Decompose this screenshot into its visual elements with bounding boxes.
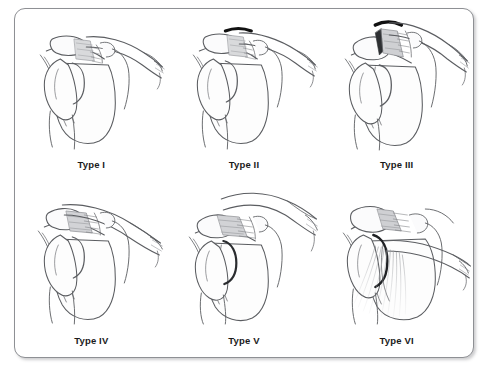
panel-grid: Type I — [15, 9, 473, 357]
shoulder-illustration-type-1 — [15, 11, 168, 151]
panel-type-6: Type VI — [320, 183, 473, 357]
shoulder-illustration-type-4 — [15, 185, 168, 325]
panel-type-5: Type V — [168, 183, 321, 357]
panel-label-type-6: Type VI — [320, 335, 473, 346]
panel-type-1: Type I — [15, 9, 168, 183]
panel-label-type-4: Type IV — [15, 335, 168, 346]
figure-frame: Type I — [14, 8, 474, 358]
panel-label-type-3: Type III — [320, 159, 473, 170]
panel-label-type-5: Type V — [168, 335, 321, 346]
shoulder-illustration-type-6 — [320, 185, 473, 325]
panel-type-3: Type III — [320, 9, 473, 183]
panel-label-type-1: Type I — [15, 159, 168, 170]
shoulder-illustration-type-3 — [320, 11, 473, 151]
shoulder-illustration-type-5 — [168, 185, 321, 325]
panel-label-type-2: Type II — [168, 159, 321, 170]
shoulder-illustration-type-2 — [168, 11, 321, 151]
panel-type-2: Type II — [168, 9, 321, 183]
panel-type-4: Type IV — [15, 183, 168, 357]
